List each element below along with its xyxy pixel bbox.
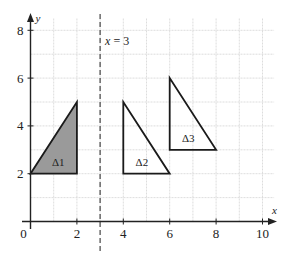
y-axis-label: y [35, 12, 41, 24]
x-axis-label: x [271, 204, 277, 216]
x-axis-arrow-icon [268, 218, 277, 225]
y-axis-arrow-icon [27, 13, 34, 22]
x-tick-label: 0 [20, 226, 27, 241]
x-tick-label: 6 [166, 226, 173, 241]
axes [22, 13, 277, 229]
y-tick-label: 2 [17, 166, 24, 181]
y-tick-label: 6 [17, 71, 24, 86]
triangle-label-t3: Δ3 [182, 132, 195, 144]
coordinate-diagram: 02468102468yxx = 3Δ1Δ2Δ3 [0, 0, 291, 260]
y-tick-label: 8 [17, 23, 24, 38]
x-tick-label: 10 [256, 226, 269, 241]
x-tick-label: 4 [120, 226, 127, 241]
triangle-label-t1: Δ1 [52, 156, 65, 168]
labels-layer: 02468102468yxx = 3Δ1Δ2Δ3 [17, 12, 277, 241]
triangle-label-t2: Δ2 [136, 156, 149, 168]
x-tick-label: 8 [213, 226, 220, 241]
x-tick-label: 2 [74, 226, 81, 241]
plot-canvas: 02468102468yxx = 3Δ1Δ2Δ3 [0, 0, 291, 260]
y-tick-label: 4 [17, 118, 24, 133]
mirror-line-label: x = 3 [104, 34, 129, 48]
